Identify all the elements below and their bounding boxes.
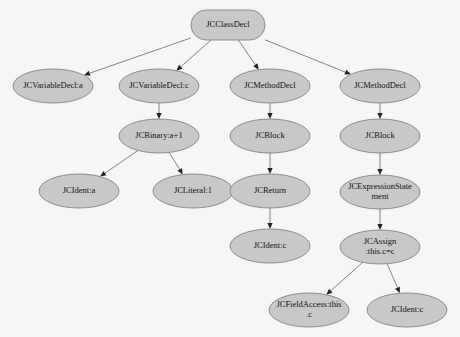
node-jcfieldaccess-this: JCFieldAccess:this.c: [269, 293, 349, 327]
edge-n0-n1: [90, 38, 191, 73]
node-jcbinary-a-1: JCBinary:a+1: [119, 119, 199, 153]
node-label: JCIdent:a: [63, 185, 96, 195]
arrowhead-icon: [377, 224, 382, 230]
arrowhead-icon: [177, 168, 182, 174]
node-label: JCIdent:c: [391, 304, 424, 314]
arrowhead-icon: [377, 113, 382, 119]
node-jcmethoddecl: JCMethodDecl: [230, 69, 310, 103]
node-label: JCFieldAccess:this: [276, 299, 341, 309]
arrowhead-icon: [156, 113, 161, 119]
arrowhead-icon: [84, 71, 91, 76]
node-label: JCVariableDecl:c: [129, 80, 189, 90]
nodes-layer: JCClassDeclJCVariableDecl:aJCVariableDec…: [13, 10, 447, 327]
node-label: JCMethodDecl: [244, 80, 296, 90]
node-jcreturn: JCReturn: [230, 174, 310, 208]
arrowhead-icon: [267, 168, 272, 174]
node-label: JCClassDecl: [206, 19, 250, 29]
ast-diagram: JCClassDeclJCVariableDecl:aJCVariableDec…: [0, 0, 460, 337]
node-label: JCReturn: [254, 185, 287, 195]
node-label: JCLiteral:1: [174, 185, 212, 195]
edge-n5-n8: [105, 150, 138, 173]
arrowhead-icon: [377, 169, 382, 175]
arrowhead-icon: [344, 70, 351, 75]
node-jcblock: JCBlock: [230, 119, 310, 153]
node-label: JCMethodDecl: [354, 80, 406, 90]
node-label: .c: [306, 309, 312, 319]
node-label: :this.c=c: [365, 246, 394, 256]
node-jcassign: JCAssign:this.c=c: [340, 230, 420, 264]
node-label: JCBinary:a+1: [135, 130, 182, 140]
node-jcclassdecl: JCClassDecl: [191, 10, 265, 40]
edge-n0-n3: [238, 40, 255, 65]
node-jcvariabledecl-a: JCVariableDecl:a: [13, 69, 93, 103]
edge-n13-n15: [387, 264, 397, 288]
edge-n0-n2: [181, 40, 211, 67]
node-jcident-a: JCIdent:a: [39, 174, 119, 208]
arrowhead-icon: [253, 63, 259, 69]
node-label: JCIdent:c: [254, 240, 287, 250]
arrowhead-icon: [100, 171, 106, 177]
node-label: ment: [372, 191, 390, 201]
node-label: JCExpressionState: [348, 181, 412, 191]
edge-n5-n9: [169, 152, 180, 169]
arrowhead-icon: [267, 113, 272, 119]
node-label: JCAssign: [364, 236, 397, 246]
node-jcmethoddecl: JCMethodDecl: [340, 69, 420, 103]
node-label: JCBlock: [365, 130, 395, 140]
node-jcblock: JCBlock: [340, 119, 420, 153]
edge-n0-n4: [265, 40, 345, 72]
node-jcident-c: JCIdent:c: [230, 229, 310, 263]
node-jcvariabledecl-c: JCVariableDecl:c: [119, 69, 199, 103]
node-jcexpressionstate: JCExpressionStatement: [340, 175, 420, 209]
node-label: JCBlock: [255, 130, 285, 140]
node-label: JCVariableDecl:a: [23, 80, 83, 90]
node-jcliteral-1: JCLiteral:1: [153, 174, 233, 208]
edge-n13-n14: [331, 262, 363, 290]
node-jcident-c: JCIdent:c: [367, 293, 447, 327]
diagram-svg: JCClassDeclJCVariableDecl:aJCVariableDec…: [0, 0, 460, 337]
arrowhead-icon: [267, 223, 272, 229]
